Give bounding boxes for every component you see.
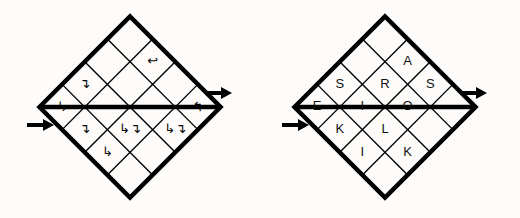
cell-1-1: I [361,98,365,113]
cell-2-3: S [426,76,435,91]
cell-2-0: ↳ [102,144,113,159]
cell-0-1: ↴ [79,76,90,91]
cell-2-1: L [381,121,388,136]
cell-2-1: ↳↴ [119,121,141,136]
cell-3-1: K [403,144,412,159]
cell-3-3: ↰ [192,99,203,114]
letter-grid: ESKIRAILOSK [282,16,487,197]
arrow-grid: ↳↴↴↩↳↳↴↳↴↰ [27,16,232,197]
cell-1-3: A [403,53,412,68]
entry-arrow-left [27,119,54,131]
cell-0-0: E [313,98,322,113]
diagram-canvas: ↳↴↴↩↳↳↴↳↴↰ESKIRAILOSK [0,0,520,218]
entry-arrow-left [282,119,309,131]
cell-1-3: ↩ [147,53,158,68]
cell-3-2: ↳↴ [164,121,186,136]
cell-1-0: ↴ [79,121,90,136]
cell-2-0: I [361,144,365,159]
cell-1-2: R [380,76,389,91]
cell-0-0: ↳ [57,99,68,114]
figure-stage: ↳↴↴↩↳↳↴↳↴↰ESKIRAILOSK [0,0,520,218]
cell-1-0: K [335,121,344,136]
cell-2-2: O [403,98,413,113]
cell-0-1: S [335,76,344,91]
